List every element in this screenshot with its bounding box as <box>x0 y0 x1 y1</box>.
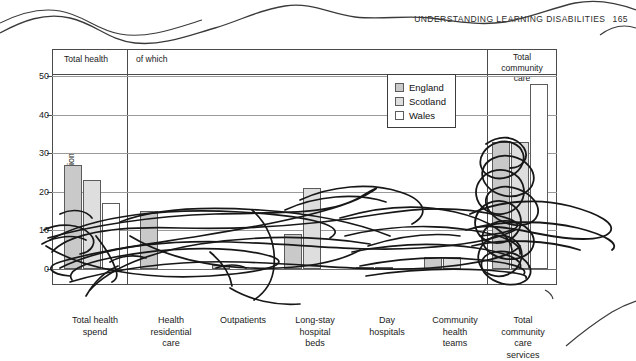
page-number: 165 <box>612 14 628 24</box>
bar-scotland-4 <box>375 267 393 269</box>
bar-england-5 <box>424 257 442 269</box>
category-label-line: beds <box>270 338 360 350</box>
bar-england-1 <box>140 211 158 269</box>
y-tick-label-0: 0 <box>44 264 49 274</box>
legend-label-scotland: Scotland <box>409 96 446 107</box>
legend-item-england: England <box>395 80 446 94</box>
gridline-40 <box>52 115 557 116</box>
y-tick-label-50: 50 <box>39 71 49 81</box>
legend-swatch-icon-scotland <box>395 97 404 106</box>
category-label-line: care <box>478 338 568 350</box>
legend-swatch-icon-england <box>395 83 404 92</box>
plot-area: £ per head of the population 01020304050… <box>52 75 557 284</box>
chart-legend: England Scotland Wales <box>387 74 456 128</box>
y-tick-label-40: 40 <box>39 110 49 120</box>
running-head: UNDERSTANDING LEARNING DISABILITIES165 <box>414 14 628 24</box>
category-label-line: residential <box>126 327 216 339</box>
bar-england-3 <box>284 234 302 269</box>
bar-wales-0 <box>102 203 120 269</box>
y-tick-label-30: 30 <box>39 148 49 158</box>
bar-scotland-5 <box>443 257 461 269</box>
bar-england-4 <box>356 267 374 269</box>
running-head-title: UNDERSTANDING LEARNING DISABILITIES <box>414 14 605 24</box>
category-label-line: services <box>478 350 568 361</box>
gridline-30 <box>52 153 557 154</box>
bar-scotland-6 <box>511 142 529 269</box>
y-tick-label-20: 20 <box>39 187 49 197</box>
legend-swatch-icon-wales <box>395 111 404 120</box>
x-category-label-6: Totalcommunitycareservices <box>478 315 568 361</box>
category-label-line: care <box>126 338 216 350</box>
bar-scotland-3 <box>303 188 321 269</box>
bar-scotland-0 <box>83 180 101 269</box>
bar-england-0 <box>64 165 82 269</box>
bar-england-2 <box>212 265 230 269</box>
legend-item-scotland: Scotland <box>395 94 446 108</box>
figure-chart: Total health of which Total community ca… <box>52 49 557 285</box>
header-cell-line2: community <box>487 63 557 74</box>
y-tick-label-10: 10 <box>39 225 49 235</box>
legend-label-wales: Wales <box>409 110 435 121</box>
header-cell-line1: Total <box>487 52 557 63</box>
bar-england-6 <box>492 142 510 269</box>
header-cell-of-which: of which <box>136 54 168 65</box>
bar-wales-6 <box>530 84 548 269</box>
legend-item-wales: Wales <box>395 108 446 122</box>
legend-label-england: England <box>409 82 444 93</box>
gridline-50 <box>52 76 557 77</box>
header-cell-total-health: Total health <box>64 54 108 65</box>
gridline-0 <box>52 269 557 270</box>
category-label-line: Total <box>478 315 568 327</box>
category-label-line: community <box>478 327 568 339</box>
